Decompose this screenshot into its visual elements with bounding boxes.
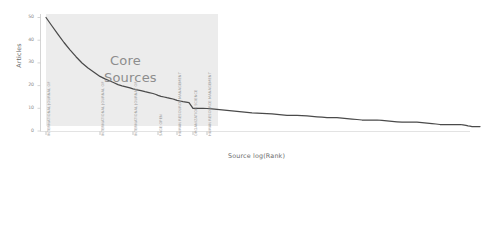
- x-tick-label-5: HUMAN RESOURCE MANAGEMENT: [179, 72, 183, 136]
- x-tick-label-3: INTERNATIONAL JOURNAL OF: [135, 81, 139, 136]
- x-tick-label-2: INTERNATIONAL JOURNAL OF: [102, 81, 106, 136]
- y-tick-label-10: 10: [20, 106, 34, 111]
- y-tick-label-30: 30: [20, 60, 34, 65]
- y-axis-ticks: [38, 18, 41, 132]
- core-sources-shaded-region: [46, 14, 218, 126]
- y-tick-label-40: 40: [20, 38, 34, 43]
- x-tick-label-4: SAGE OPEN: [160, 114, 164, 136]
- x-tick-label-6: ORGANIZATION SCIENCE: [195, 90, 199, 136]
- x-axis-title: Source log(Rank): [228, 152, 285, 160]
- y-tick-label-0: 0: [20, 129, 34, 134]
- y-tick-label-20: 20: [20, 83, 34, 88]
- bradford-law-chart: Articles 50 40 30 20 10 0 INTERNATIONAL …: [0, 0, 493, 229]
- x-tick-label-7: HUMAN RESOURCE MANAGEMENT: [209, 72, 213, 136]
- x-tick-label-1: INTERNATIONAL JOURNAL OF: [48, 81, 52, 136]
- chart-plot-area: [0, 0, 493, 229]
- y-tick-label-50: 50: [20, 15, 34, 20]
- x-axis-ticks: [46, 132, 207, 136]
